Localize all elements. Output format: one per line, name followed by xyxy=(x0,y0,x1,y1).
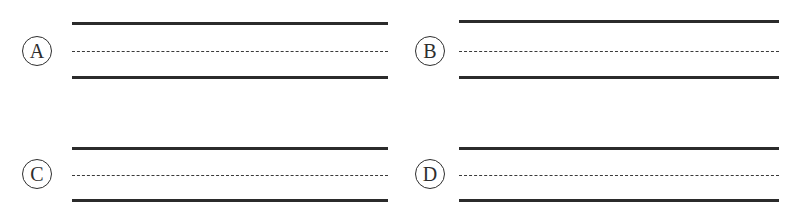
center-divider-line-d xyxy=(459,175,779,176)
upper-edge-line-d xyxy=(459,147,779,150)
lower-edge-line-d xyxy=(459,199,779,202)
center-divider-line-c xyxy=(72,175,388,176)
panel-label-c: C xyxy=(22,159,52,189)
panel-label-d: D xyxy=(415,159,445,189)
lane-group-c xyxy=(72,0,388,212)
panel-figure: A B C D xyxy=(0,0,800,212)
lane-group-d xyxy=(459,0,779,212)
panel-label-b: B xyxy=(415,36,445,66)
upper-edge-line-c xyxy=(72,147,388,150)
panel-label-a: A xyxy=(22,36,52,66)
lower-edge-line-c xyxy=(72,199,388,202)
